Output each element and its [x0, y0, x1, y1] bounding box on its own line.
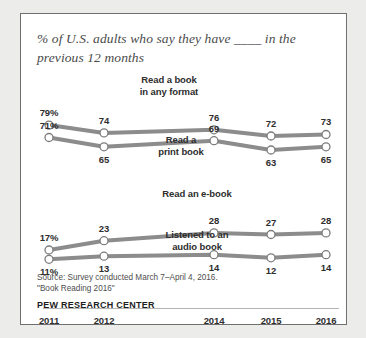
- point-value-label: 65: [321, 154, 331, 165]
- x-axis-tick-label: 2012: [94, 315, 115, 326]
- data-point-marker: [100, 143, 108, 151]
- point-value-label: 17%: [40, 232, 59, 243]
- data-point-marker: [267, 146, 275, 154]
- source-note: Source: Survey conducted March 7–April 4…: [37, 273, 218, 294]
- page-background: % of U.S. adults who say they have ____ …: [0, 0, 366, 338]
- series-name-label: Read a print book: [158, 134, 203, 157]
- data-point-marker: [45, 134, 53, 142]
- chart-plot-area: 79%7476727371%6569636517%2328272811%1314…: [21, 72, 346, 272]
- point-value-label: 76: [209, 112, 219, 123]
- data-point-marker: [45, 246, 53, 254]
- x-axis-tick-label: 2011: [39, 315, 59, 326]
- point-value-label: 14: [209, 262, 219, 273]
- point-value-label: 71%: [40, 120, 59, 131]
- data-point-marker: [322, 131, 330, 139]
- data-point-marker: [322, 143, 330, 151]
- data-point-marker: [100, 252, 108, 260]
- point-value-label: 14: [321, 262, 331, 273]
- series-name-label: Listened to an audio book: [166, 229, 229, 252]
- data-point-marker: [100, 237, 108, 245]
- data-point-marker: [267, 231, 275, 239]
- data-point-marker: [322, 229, 330, 237]
- data-point-marker: [267, 254, 275, 262]
- point-value-label: 27: [266, 217, 276, 228]
- series-name-label: Read a book in any format: [140, 74, 198, 97]
- point-value-label: 12: [266, 265, 276, 276]
- data-point-marker: [267, 132, 275, 140]
- x-axis-tick-label: 2016: [316, 315, 337, 326]
- pew-research-center-label: PEW RESEARCH CENTER: [37, 300, 155, 310]
- point-value-label: 28: [209, 215, 219, 226]
- chart-card: % of U.S. adults who say they have ____ …: [20, 13, 347, 325]
- point-value-label: 72: [266, 118, 276, 129]
- point-value-label: 74: [99, 115, 109, 126]
- point-value-label: 65: [99, 154, 109, 165]
- point-value-label: 63: [266, 157, 276, 168]
- data-point-marker: [322, 251, 330, 259]
- data-point-marker: [45, 255, 53, 263]
- x-axis-tick-label: 2014: [204, 315, 225, 326]
- data-point-marker: [100, 129, 108, 137]
- x-axis-tick-label: 2015: [261, 315, 282, 326]
- series-name-label: Read an e-book: [162, 188, 231, 200]
- point-value-label: 73: [321, 116, 331, 127]
- series-line: [49, 255, 326, 260]
- point-value-label: 79%: [40, 107, 59, 118]
- point-value-label: 23: [99, 223, 109, 234]
- data-point-marker: [210, 137, 218, 145]
- point-value-label: 69: [209, 123, 219, 134]
- point-value-label: 28: [321, 215, 331, 226]
- chart-title: % of U.S. adults who say they have ____ …: [37, 29, 329, 67]
